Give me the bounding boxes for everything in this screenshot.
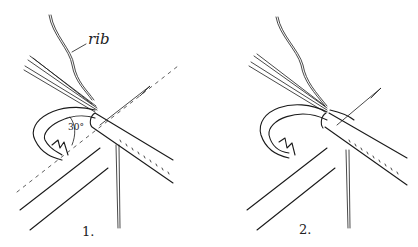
angle-label: 30°: [68, 122, 84, 132]
thread-wrap: [321, 110, 354, 128]
rib-label: rib: [88, 30, 110, 48]
step-2-caption: 2.: [299, 222, 311, 237]
needle: [337, 88, 381, 125]
step-1-caption: 1.: [82, 224, 94, 239]
panel-step-1: rib 30° 1.: [0, 0, 209, 247]
fibers-bundle: [24, 56, 97, 112]
tube-serrations: [120, 140, 169, 174]
fibers-bundle: [249, 54, 327, 112]
hanging-thread: [116, 145, 120, 228]
bobbin-tube: [325, 113, 407, 185]
hook-barb: [52, 140, 68, 155]
hook-shank: [20, 148, 108, 230]
hook-shank: [247, 148, 335, 230]
hook-bend: [33, 107, 95, 160]
tube-serrations: [349, 140, 398, 174]
rib-pointer: [72, 44, 86, 52]
step-2-illustration: [209, 0, 418, 247]
rib-thread: [276, 17, 327, 106]
needle: [100, 86, 150, 125]
hanging-thread: [346, 150, 350, 228]
axis-dashed-line: [17, 66, 178, 192]
panel-step-2: 2.: [209, 0, 418, 247]
